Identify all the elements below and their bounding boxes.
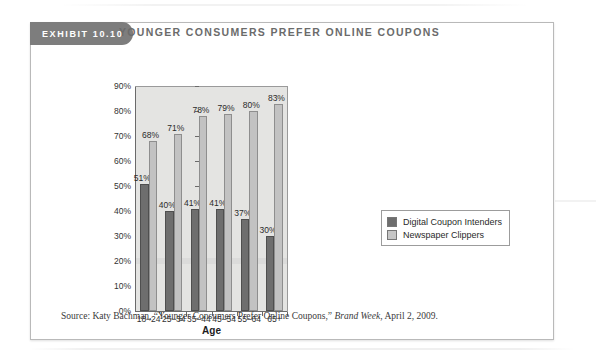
legend-swatch-icon <box>387 217 397 227</box>
y-axis-tick-label: 70% <box>114 131 131 141</box>
source-note: Source: Katy Bachman, “Younger Consumers… <box>61 311 531 321</box>
source-publication: Brand Week <box>334 311 380 321</box>
legend-item-label: Digital Coupon Intenders <box>403 217 502 227</box>
x-axis-title: Age <box>135 325 288 336</box>
legend-item-label: Newspaper Clippers <box>403 230 484 240</box>
y-axis: 0%10%20%30%40%50%60%70%80%90% <box>95 86 131 311</box>
scan-artifact-top <box>60 4 530 6</box>
bar-chart: 0%10%20%30%40%50%60%70%80%90% 51%68%40%7… <box>31 53 553 301</box>
exhibit-card: EXHIBIT 10.10 YOUNGER CONSUMERS PREFER O… <box>30 22 554 340</box>
scan-artifact-bottom <box>30 348 575 350</box>
y-axis-tick-label: 30% <box>114 231 131 241</box>
legend-item: Digital Coupon Intenders <box>387 215 502 228</box>
source-suffix: , April 2, 2009. <box>380 311 438 321</box>
x-axis: 18–2425–3435–4445–5455–6465+ <box>136 86 287 311</box>
scan-artifact-right <box>555 200 596 202</box>
y-axis-tick-label: 80% <box>114 106 131 116</box>
page-title: YOUNGER CONSUMERS PREFER ONLINE COUPONS <box>119 26 440 38</box>
source-prefix: Source: Katy Bachman, “Younger Consumers… <box>61 311 334 321</box>
legend-item: Newspaper Clippers <box>387 228 502 241</box>
y-axis-tick-label: 20% <box>114 256 131 266</box>
y-axis-tick-label: 40% <box>114 206 131 216</box>
exhibit-number-label: EXHIBIT 10.10 <box>42 29 123 39</box>
exhibit-number-tab: EXHIBIT 10.10 <box>30 22 133 45</box>
y-axis-tick-label: 60% <box>114 156 131 166</box>
chart-legend: Digital Coupon IntendersNewspaper Clippe… <box>381 210 510 246</box>
exhibit-header: EXHIBIT 10.10 YOUNGER CONSUMERS PREFER O… <box>31 23 553 51</box>
y-axis-tick-label: 90% <box>114 81 131 91</box>
legend-swatch-icon <box>387 230 397 240</box>
y-axis-tick-label: 50% <box>114 181 131 191</box>
y-axis-tick-label: 10% <box>114 281 131 291</box>
